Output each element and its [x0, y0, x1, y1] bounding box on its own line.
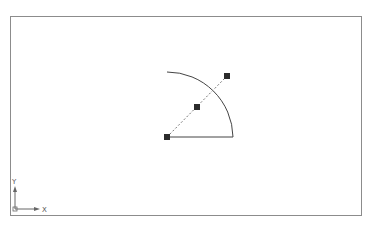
ucs-icon: Y X — [11, 178, 47, 214]
midpoint-grip[interactable] — [194, 104, 200, 110]
drawing-canvas[interactable]: Y X — [0, 0, 373, 227]
endpoint-grip[interactable] — [224, 73, 230, 79]
center-grip[interactable] — [164, 134, 170, 140]
ucs-y-label: Y — [11, 178, 17, 186]
ucs-x-label: X — [42, 206, 47, 214]
